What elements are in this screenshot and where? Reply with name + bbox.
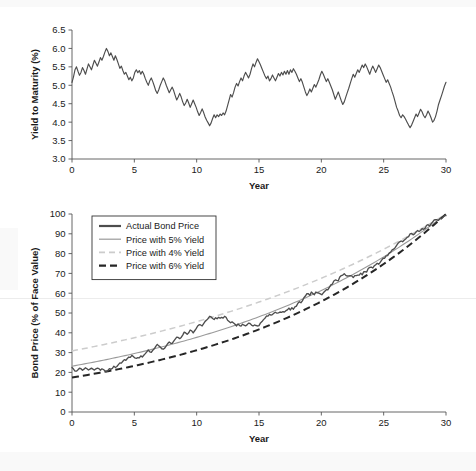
x-tick-label: 10 (191, 417, 202, 428)
y-tick-label: 0 (60, 406, 65, 417)
x-tick-label: 20 (316, 164, 327, 175)
axes-yield-to-maturity: 3.03.54.04.55.05.56.06.5051015202530Year… (29, 24, 451, 191)
y-tick-label: 50 (55, 307, 66, 318)
legend-label-1: Actual Bond Price (126, 221, 199, 231)
x-tick-label: 15 (254, 164, 265, 175)
y-tick-label: 3.5 (52, 135, 65, 146)
x-tick-label: 5 (132, 417, 137, 428)
x-tick-label: 25 (378, 164, 389, 175)
y-tick-label: 90 (55, 228, 66, 239)
y-tick-label: 40 (55, 327, 66, 338)
y-tick-label: 10 (55, 387, 66, 398)
x-tick-label: 15 (254, 417, 265, 428)
y-tick-label: 20 (55, 367, 66, 378)
y-tick-label: 5.5 (52, 61, 65, 72)
y-tick-label: 6.0 (52, 43, 65, 54)
y-tick-label: 70 (55, 268, 66, 279)
x-tick-label: 10 (191, 164, 202, 175)
y-axis-title: Yield to Maturity (%) (29, 49, 40, 140)
y-tick-label: 3.0 (52, 153, 65, 164)
y-axis-title: Bond Price (% of Face Value) (29, 248, 40, 379)
y-tick-label: 5.0 (52, 80, 65, 91)
x-tick-label: 5 (132, 164, 137, 175)
x-tick-label: 30 (441, 164, 452, 175)
y-tick-label: 100 (50, 208, 66, 219)
y-tick-label: 60 (55, 288, 66, 299)
x-tick-label: 25 (378, 417, 389, 428)
bond-figure: 3.03.54.04.55.05.56.06.5051015202530Year… (0, 0, 476, 471)
x-axis-title: Year (249, 433, 269, 444)
legend: Actual Bond PricePrice with 5% YieldPric… (92, 216, 216, 280)
y-tick-label: 80 (55, 248, 66, 259)
axis-spine (72, 30, 446, 159)
legend-label-2: Price with 5% Yield (126, 235, 204, 245)
y-tick-label: 4.5 (52, 98, 65, 109)
x-tick-label: 0 (69, 417, 74, 428)
series-yield-to-maturity (72, 48, 446, 127)
y-tick-label: 30 (55, 347, 66, 358)
legend-label-4: Price with 6% Yield (126, 261, 204, 271)
legend-label-3: Price with 4% Yield (126, 248, 204, 258)
y-tick-label: 4.0 (52, 117, 65, 128)
x-tick-label: 30 (441, 417, 452, 428)
x-tick-label: 20 (316, 417, 327, 428)
x-tick-label: 0 (69, 164, 74, 175)
y-tick-label: 6.5 (52, 24, 65, 35)
x-axis-title: Year (249, 180, 269, 191)
